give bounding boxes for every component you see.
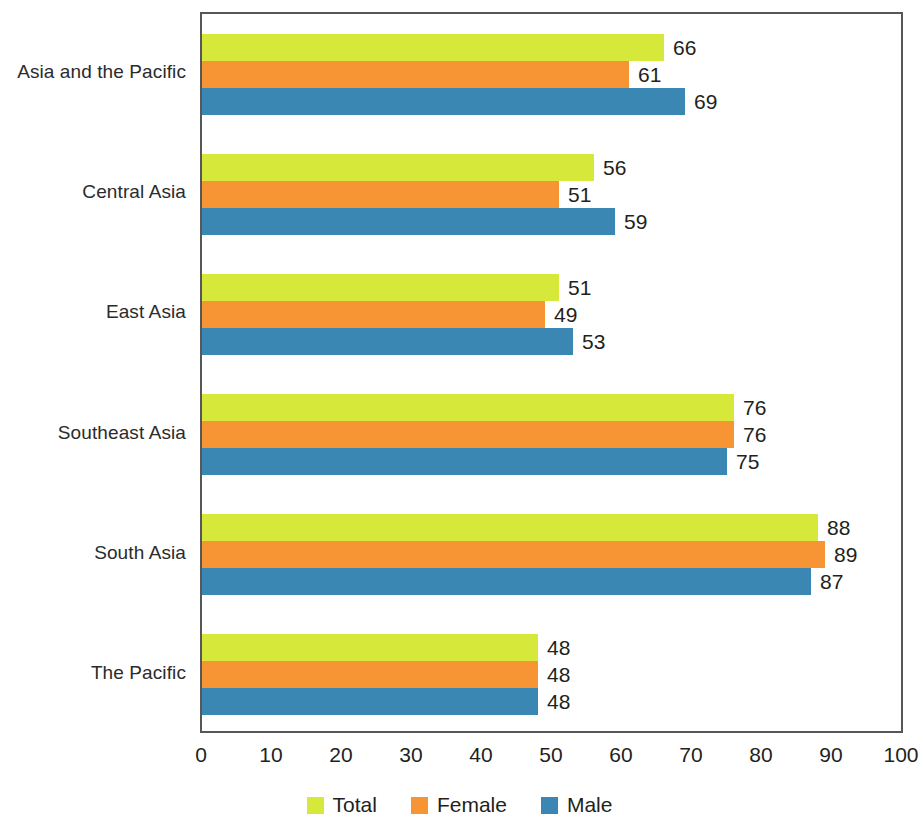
category-axis-labels: Asia and the PacificCentral AsiaEast Asi… <box>0 12 186 733</box>
bar-value-label: 69 <box>694 88 717 115</box>
bar-value-label: 53 <box>582 328 605 355</box>
legend-item[interactable]: Male <box>541 794 613 816</box>
bar-value-label: 76 <box>743 421 766 448</box>
bar-value-label: 61 <box>638 61 661 88</box>
bar-value-label: 59 <box>624 208 647 235</box>
category-label: East Asia <box>0 301 186 323</box>
legend-item[interactable]: Female <box>411 794 507 816</box>
category-label: Asia and the Pacific <box>0 61 186 83</box>
bar-value-label: 76 <box>743 394 766 421</box>
bar <box>202 181 559 208</box>
bar <box>202 328 573 355</box>
legend-swatch-icon <box>411 797 428 814</box>
bar-value-label: 51 <box>568 274 591 301</box>
category-label: Southeast Asia <box>0 422 186 444</box>
x-axis-tick-labels: 0102030405060708090100 <box>0 741 919 771</box>
x-tick-label: 60 <box>609 741 632 768</box>
x-tick-label: 90 <box>819 741 842 768</box>
x-tick-label: 80 <box>749 741 772 768</box>
legend-swatch-icon <box>307 797 324 814</box>
bar <box>202 661 538 688</box>
bar-chart: Asia and the PacificCentral AsiaEast Asi… <box>0 0 919 823</box>
category-label: Central Asia <box>0 181 186 203</box>
bar-value-label: 75 <box>736 448 759 475</box>
bar <box>202 421 734 448</box>
x-tick-label: 0 <box>195 741 207 768</box>
bar-value-label: 88 <box>827 514 850 541</box>
bar <box>202 448 727 475</box>
bar <box>202 541 825 568</box>
bar <box>202 154 594 181</box>
bar <box>202 394 734 421</box>
x-tick-label: 30 <box>399 741 422 768</box>
bar <box>202 688 538 715</box>
category-label: South Asia <box>0 542 186 564</box>
x-tick-label: 10 <box>259 741 282 768</box>
bar <box>202 34 664 61</box>
category-label: The Pacific <box>0 662 186 684</box>
bar-value-label: 48 <box>547 634 570 661</box>
bar <box>202 61 629 88</box>
legend-item[interactable]: Total <box>307 794 377 816</box>
x-tick-label: 20 <box>329 741 352 768</box>
x-tick-label: 100 <box>883 741 918 768</box>
plot-area: 666169565159514953767675888987484848 <box>200 12 903 733</box>
bar <box>202 301 545 328</box>
bar-value-label: 49 <box>554 301 577 328</box>
bar-value-label: 66 <box>673 34 696 61</box>
bar <box>202 274 559 301</box>
x-tick-label: 70 <box>679 741 702 768</box>
bar-value-label: 56 <box>603 154 626 181</box>
legend-swatch-icon <box>541 797 558 814</box>
bar <box>202 88 685 115</box>
bars-container: 666169565159514953767675888987484848 <box>202 14 901 731</box>
bar-value-label: 48 <box>547 661 570 688</box>
x-tick-label: 50 <box>539 741 562 768</box>
bar-value-label: 89 <box>834 541 857 568</box>
bar <box>202 208 615 235</box>
legend-label: Total <box>333 794 377 816</box>
chart-legend: TotalFemaleMale <box>0 790 919 820</box>
x-tick-label: 40 <box>469 741 492 768</box>
bar <box>202 634 538 661</box>
bar <box>202 568 811 595</box>
bar-value-label: 51 <box>568 181 591 208</box>
bar-value-label: 87 <box>820 568 843 595</box>
legend-label: Female <box>437 794 507 816</box>
bar-value-label: 48 <box>547 688 570 715</box>
bar <box>202 514 818 541</box>
legend-label: Male <box>567 794 613 816</box>
